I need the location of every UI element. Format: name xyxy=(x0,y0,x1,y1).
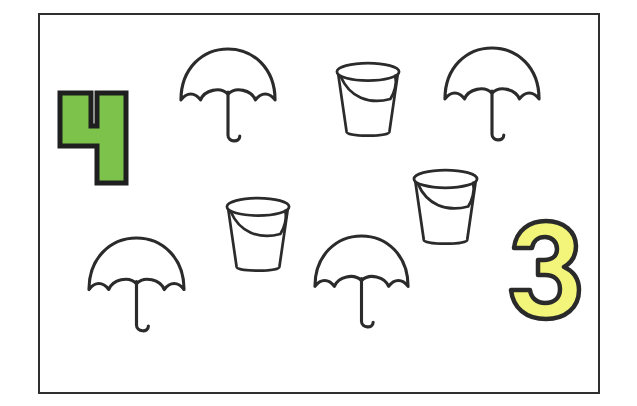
umbrella-icon xyxy=(443,46,541,144)
number-four-glyph xyxy=(57,90,129,186)
bucket-icon xyxy=(224,195,292,275)
number-four: 4 xyxy=(57,90,129,186)
umbrella-icon xyxy=(87,236,186,335)
number-three: 3 xyxy=(508,218,582,322)
umbrella-icon xyxy=(179,47,277,145)
number-three-glyph xyxy=(508,218,582,322)
umbrella-icon xyxy=(313,234,410,331)
bucket-icon xyxy=(334,60,402,140)
bucket-icon xyxy=(411,167,480,248)
